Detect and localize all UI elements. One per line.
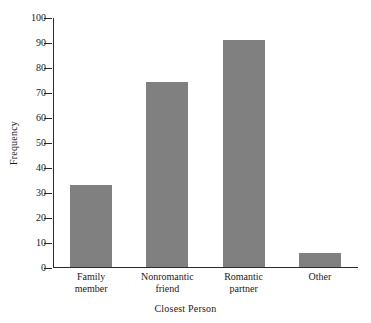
y-axis-tick-label: 0 [6, 263, 46, 273]
y-axis-line [53, 18, 54, 268]
x-axis-label-family-member: Familymember [53, 271, 129, 294]
x-axis-label-line: Other [282, 271, 358, 283]
bar-chart-figure: Frequency 0102030405060708090100 Familym… [0, 0, 371, 323]
plot-area: 0102030405060708090100 FamilymemberNonro… [53, 18, 358, 268]
x-axis-label-romantic-partner: Romanticpartner [206, 271, 282, 294]
x-axis-label-line: Romantic [206, 271, 282, 283]
y-axis-tick-label: 10 [6, 238, 46, 248]
x-axis-label-other: Other [282, 271, 358, 283]
y-axis-tick-label: 40 [6, 163, 46, 173]
y-axis-tick-label: 100 [6, 13, 46, 23]
x-axis-label-line: partner [206, 283, 282, 295]
bar-nonromantic-friend [146, 82, 188, 267]
y-axis-tick-label: 20 [6, 213, 46, 223]
x-axis-line [53, 267, 358, 268]
x-axis-label-line: Nonromantic [129, 271, 205, 283]
x-axis-label-line: member [53, 283, 129, 295]
bar-other [299, 253, 341, 267]
y-axis-tick-label: 60 [6, 113, 46, 123]
bar-family-member [70, 185, 112, 268]
x-axis-title: Closest Person [0, 303, 371, 315]
y-axis-tick-label: 30 [6, 188, 46, 198]
x-axis-label-line: friend [129, 283, 205, 295]
bar-romantic-partner [223, 40, 265, 268]
x-axis-label-nonromantic-friend: Nonromanticfriend [129, 271, 205, 294]
y-axis-tick-label: 80 [6, 63, 46, 73]
y-axis-tick-label: 70 [6, 88, 46, 98]
x-axis-label-line: Family [53, 271, 129, 283]
y-axis-tick-label: 90 [6, 38, 46, 48]
y-axis-tick-label: 50 [6, 138, 46, 148]
